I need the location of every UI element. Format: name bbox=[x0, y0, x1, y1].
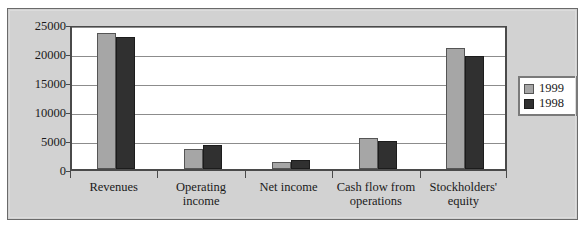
x-axis-tick-mark bbox=[70, 171, 71, 178]
y-axis-tick-label: 15000 bbox=[12, 78, 66, 91]
y-axis-tick-label: 0 bbox=[12, 165, 66, 178]
bar-1998-0 bbox=[116, 37, 135, 169]
gridline bbox=[72, 114, 505, 115]
bar-1998-3 bbox=[378, 141, 397, 169]
legend-item: 1998 bbox=[524, 96, 572, 111]
x-axis-tick-mark bbox=[245, 171, 246, 178]
x-axis-category-label: Operating income bbox=[157, 180, 244, 208]
y-axis-tick-label: 25000 bbox=[12, 20, 66, 33]
bar-1998-2 bbox=[291, 160, 310, 169]
x-axis-tick-mark bbox=[157, 171, 158, 178]
bar-1999-4 bbox=[446, 48, 465, 169]
gridline bbox=[72, 56, 505, 57]
gridline bbox=[72, 143, 505, 144]
y-axis-tick-label: 20000 bbox=[12, 49, 66, 62]
x-axis-category-label: Net income bbox=[245, 180, 332, 194]
legend-item-label: 1998 bbox=[539, 97, 564, 110]
gridline bbox=[72, 85, 505, 86]
chart-legend: 19991998 bbox=[518, 76, 578, 116]
x-axis-tick-mark bbox=[332, 171, 333, 178]
plot-area bbox=[70, 26, 507, 171]
bar-1998-4 bbox=[465, 56, 484, 169]
y-axis: 0500010000150002000025000 bbox=[8, 26, 66, 171]
bar-1999-2 bbox=[272, 162, 291, 169]
x-axis-category-label: Cash flow from operations bbox=[332, 180, 419, 208]
y-axis-tick-label: 10000 bbox=[12, 107, 66, 120]
x-axis: RevenuesOperating incomeNet incomeCash f… bbox=[70, 171, 507, 217]
bar-1998-1 bbox=[203, 145, 222, 169]
swatch-1999-icon bbox=[524, 84, 534, 94]
chart-figure: 0500010000150002000025000 RevenuesOperat… bbox=[7, 8, 578, 220]
y-axis-tick-label: 5000 bbox=[12, 136, 66, 149]
gridline bbox=[72, 27, 505, 28]
x-axis-tick-mark bbox=[420, 171, 421, 178]
legend-item: 1999 bbox=[524, 81, 572, 96]
bar-1999-0 bbox=[97, 33, 116, 169]
bar-1999-3 bbox=[359, 138, 378, 169]
swatch-1998-icon bbox=[524, 99, 534, 109]
bar-1999-1 bbox=[184, 149, 203, 169]
x-axis-category-label: Stockholders' equity bbox=[420, 180, 507, 208]
x-axis-category-label: Revenues bbox=[70, 180, 157, 194]
x-axis-tick-mark bbox=[506, 171, 507, 178]
legend-item-label: 1999 bbox=[539, 82, 564, 95]
